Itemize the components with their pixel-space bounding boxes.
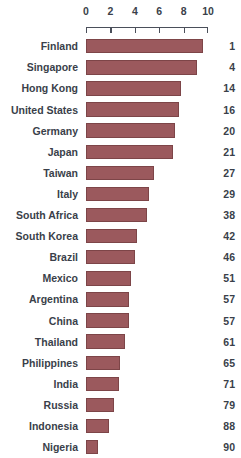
rank-value-label: 4 bbox=[208, 62, 241, 73]
axis-tick-label: 6 bbox=[156, 5, 162, 17]
category-label: United States bbox=[0, 105, 86, 116]
bar-track bbox=[86, 310, 208, 331]
bar bbox=[86, 440, 98, 454]
category-label: South Africa bbox=[0, 210, 86, 221]
bar bbox=[86, 60, 197, 74]
category-label: Singapore bbox=[0, 62, 86, 73]
rank-value-label: 16 bbox=[208, 105, 241, 116]
rank-value-label: 88 bbox=[208, 421, 241, 432]
axis-tick-label: 10 bbox=[202, 5, 214, 17]
bar bbox=[86, 102, 179, 116]
bar-track bbox=[86, 289, 208, 310]
rank-value-label: 29 bbox=[208, 189, 241, 200]
rank-value-label: 21 bbox=[208, 147, 241, 158]
bar-track bbox=[86, 36, 208, 57]
bar-track bbox=[86, 78, 208, 99]
rank-value-label: 65 bbox=[208, 358, 241, 369]
bar bbox=[86, 229, 137, 243]
bar-track bbox=[86, 331, 208, 352]
rank-value-label: 57 bbox=[208, 316, 241, 327]
chart-row: United States16 bbox=[0, 99, 241, 120]
rank-value-label: 90 bbox=[208, 442, 241, 453]
bar bbox=[86, 377, 119, 391]
axis-tick-mark bbox=[110, 27, 111, 33]
bar-track bbox=[86, 416, 208, 437]
category-label: Italy bbox=[0, 189, 86, 200]
axis-tick-mark bbox=[159, 27, 160, 33]
category-label: Hong Kong bbox=[0, 83, 86, 94]
bar-track bbox=[86, 120, 208, 141]
chart-row: Japan21 bbox=[0, 141, 241, 162]
bar bbox=[86, 292, 129, 306]
category-label: Brazil bbox=[0, 252, 86, 263]
axis-line bbox=[86, 27, 208, 28]
bar bbox=[86, 208, 147, 222]
rank-value-label: 57 bbox=[208, 294, 241, 305]
chart-row: Argentina57 bbox=[0, 289, 241, 310]
bar-track bbox=[86, 226, 208, 247]
category-label: China bbox=[0, 316, 86, 327]
rank-value-label: 51 bbox=[208, 273, 241, 284]
bar-track bbox=[86, 99, 208, 120]
chart-row: Brazil46 bbox=[0, 247, 241, 268]
category-label: Indonesia bbox=[0, 421, 86, 432]
bar-track bbox=[86, 437, 208, 458]
category-label: Philippines bbox=[0, 358, 86, 369]
bar bbox=[86, 313, 129, 327]
category-label: Mexico bbox=[0, 273, 86, 284]
chart-row: Taiwan27 bbox=[0, 163, 241, 184]
axis-tick-mark bbox=[207, 27, 208, 33]
chart-row: Mexico51 bbox=[0, 268, 241, 289]
bar bbox=[86, 166, 154, 180]
bar-track bbox=[86, 268, 208, 289]
rank-value-label: 46 bbox=[208, 252, 241, 263]
chart-row: Singapore4 bbox=[0, 57, 241, 78]
bar-track bbox=[86, 141, 208, 162]
bar bbox=[86, 81, 181, 95]
chart-row: Nigeria90 bbox=[0, 437, 241, 458]
chart-row: Italy29 bbox=[0, 184, 241, 205]
rank-value-label: 79 bbox=[208, 400, 241, 411]
category-label: Taiwan bbox=[0, 168, 86, 179]
category-label: South Korea bbox=[0, 231, 86, 242]
axis-tick-mark bbox=[135, 27, 136, 33]
bar-track bbox=[86, 163, 208, 184]
axis-tick-label: 4 bbox=[132, 5, 138, 17]
axis-tick-label: 8 bbox=[181, 5, 187, 17]
bar-track bbox=[86, 352, 208, 373]
chart-row: Philippines65 bbox=[0, 352, 241, 373]
category-label: Argentina bbox=[0, 294, 86, 305]
chart-row: China57 bbox=[0, 310, 241, 331]
category-label: Russia bbox=[0, 400, 86, 411]
rank-value-label: 71 bbox=[208, 379, 241, 390]
bar bbox=[86, 334, 125, 348]
category-label: Nigeria bbox=[0, 442, 86, 453]
bar bbox=[86, 123, 175, 137]
axis-tick-mark bbox=[184, 27, 185, 33]
chart-row: Thailand61 bbox=[0, 331, 241, 352]
axis-tick-label: 2 bbox=[107, 5, 113, 17]
bar bbox=[86, 250, 135, 264]
chart-x-axis: 0246810 bbox=[0, 0, 241, 36]
rank-value-label: 20 bbox=[208, 126, 241, 137]
rank-value-label: 1 bbox=[208, 41, 241, 52]
bar bbox=[86, 187, 149, 201]
category-label: Thailand bbox=[0, 337, 86, 348]
category-label: Finland bbox=[0, 41, 86, 52]
chart-row: Hong Kong14 bbox=[0, 78, 241, 99]
bar bbox=[86, 145, 173, 159]
axis-tick-label: 0 bbox=[83, 5, 89, 17]
chart-row: Germany20 bbox=[0, 120, 241, 141]
rank-value-label: 61 bbox=[208, 337, 241, 348]
bar-track bbox=[86, 374, 208, 395]
category-label: India bbox=[0, 379, 86, 390]
rank-value-label: 38 bbox=[208, 210, 241, 221]
bar bbox=[86, 271, 131, 285]
chart-rows: Finland1Singapore4Hong Kong14United Stat… bbox=[0, 36, 241, 458]
bar bbox=[86, 356, 120, 370]
bar-track bbox=[86, 205, 208, 226]
bar bbox=[86, 39, 203, 53]
rank-value-label: 27 bbox=[208, 168, 241, 179]
chart-row: India71 bbox=[0, 374, 241, 395]
